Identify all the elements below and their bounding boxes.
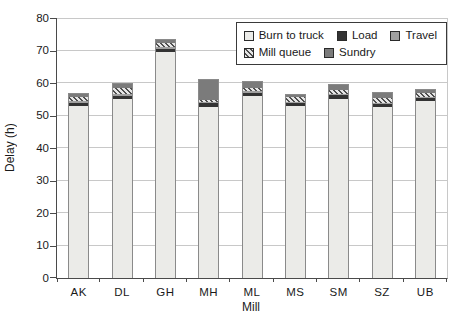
stacked-bar-chart-figure: Delay (h) 01020304050607080AKDLGHMHMLMSS…: [0, 0, 462, 321]
x-tick-label-gh: GH: [144, 286, 187, 298]
legend-label-sundry: Sundry: [339, 44, 375, 61]
x-axis-tick-6: [316, 278, 317, 282]
x-tick-label-ml: ML: [230, 286, 273, 298]
legend-swatch-travel: [390, 31, 400, 41]
bar-ms: [285, 94, 306, 278]
bar-segment-sm-burn-to-truck: [329, 99, 348, 278]
x-tick-label-ak: AK: [57, 286, 100, 298]
legend-label-mill-queue: Mill queue: [259, 44, 311, 61]
y-axis-tick-10: [50, 246, 56, 247]
x-tick-label-ms: MS: [274, 286, 317, 298]
y-axis-tick-60: [50, 83, 56, 84]
y-tick-label-20: 20: [19, 207, 49, 220]
bar-sm: [328, 84, 349, 278]
y-tick-label-80: 80: [19, 12, 49, 25]
bar-segment-gh-burn-to-truck: [156, 52, 175, 278]
bar-segment-mh-burn-to-truck: [199, 107, 218, 278]
legend-row-1: Burn to truckLoadTravel: [244, 27, 437, 44]
y-tick-label-0: 0: [19, 272, 49, 285]
y-tick-label-70: 70: [19, 44, 49, 57]
x-axis-label: Mill: [56, 300, 446, 314]
y-axis-tick-40: [50, 148, 56, 149]
bar-ub: [415, 89, 436, 278]
legend-label-burn-to-truck: Burn to truck: [259, 27, 324, 44]
bar-mh: [198, 79, 219, 278]
y-tick-label-10: 10: [19, 239, 49, 252]
bar-dl: [112, 83, 133, 278]
y-tick-label-50: 50: [19, 109, 49, 122]
legend-label-load: Load: [352, 27, 378, 44]
x-tick-label-mh: MH: [187, 286, 230, 298]
legend-item-sundry: Sundry: [324, 44, 375, 61]
bar-gh: [155, 39, 176, 278]
x-tick-label-dl: DL: [100, 286, 143, 298]
x-axis-tick-1: [99, 278, 100, 282]
legend-swatch-mill-queue: [244, 48, 254, 58]
bar-segment-mh-sundry: [199, 80, 218, 100]
y-tick-label-60: 60: [19, 77, 49, 90]
y-axis-tick-70: [50, 51, 56, 52]
y-axis-label: Delay (h): [2, 18, 18, 278]
bar-ak: [68, 93, 89, 278]
legend-swatch-load: [337, 31, 347, 41]
bar-sz: [372, 92, 393, 278]
y-axis-tick-20: [50, 213, 56, 214]
legend-label-travel: Travel: [405, 27, 437, 44]
legend-item-travel: Travel: [390, 27, 437, 44]
x-axis-tick-8: [403, 278, 404, 282]
x-axis-tick-5: [273, 278, 274, 282]
bar-ml: [242, 81, 263, 278]
y-axis-tick-30: [50, 181, 56, 182]
legend-item-mill-queue: Mill queue: [244, 44, 311, 61]
x-tick-label-sm: SM: [317, 286, 360, 298]
x-axis-tick-2: [143, 278, 144, 282]
x-axis-tick-7: [359, 278, 360, 282]
y-tick-label-30: 30: [19, 174, 49, 187]
legend-swatch-burn-to-truck: [244, 31, 254, 41]
bar-segment-dl-burn-to-truck: [113, 99, 132, 278]
x-tick-label-sz: SZ: [360, 286, 403, 298]
legend-swatch-sundry: [324, 48, 334, 58]
x-axis-tick-4: [229, 278, 230, 282]
y-axis-tick-50: [50, 116, 56, 117]
x-tick-label-ub: UB: [404, 286, 447, 298]
legend-item-burn-to-truck: Burn to truck: [244, 27, 324, 44]
x-axis-tick-3: [186, 278, 187, 282]
bar-segment-ml-burn-to-truck: [243, 96, 262, 278]
bar-segment-ak-burn-to-truck: [69, 106, 88, 278]
y-tick-label-40: 40: [19, 142, 49, 155]
x-axis-tick-0: [57, 278, 58, 282]
legend-item-load: Load: [337, 27, 378, 44]
bar-segment-sz-burn-to-truck: [373, 107, 392, 278]
legend-box: Burn to truckLoadTravelMill queueSundry: [236, 22, 447, 65]
legend-row-2: Mill queueSundry: [244, 44, 437, 61]
bar-segment-ms-burn-to-truck: [286, 106, 305, 278]
gridline-80: [57, 18, 447, 19]
y-axis-tick-80: [50, 18, 56, 19]
bar-segment-ub-burn-to-truck: [416, 101, 435, 278]
x-axis-tick-9: [446, 278, 447, 282]
y-axis-tick-0: [50, 277, 56, 278]
